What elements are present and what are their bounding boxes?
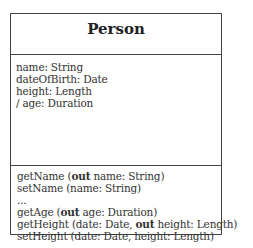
op-text: getName ( <box>17 170 71 182</box>
class-name: Person <box>87 20 145 54</box>
op-text: name: String) <box>90 170 164 182</box>
op-keyword: out <box>61 206 80 218</box>
op-text: setName (name: String) <box>17 182 141 194</box>
operation: setHeight (date: Date, height: Length) <box>17 230 221 242</box>
uml-class-person: Person name: String dateOfBirth: Date he… <box>10 13 222 235</box>
op-text: age: Duration) <box>79 206 157 218</box>
operation: getName (out name: String) <box>17 170 221 182</box>
op-text: getHeight (date: Date, <box>17 218 136 230</box>
operation: ... <box>17 194 221 206</box>
op-keyword: out <box>71 170 90 182</box>
class-header: Person <box>11 14 221 55</box>
operation: getAge (out age: Duration) <box>17 206 221 218</box>
attributes-compartment: name: String dateOfBirth: Date height: L… <box>11 55 221 166</box>
operations-compartment: getName (out name: String) setName (name… <box>11 166 221 242</box>
attribute: height: Length <box>16 85 221 97</box>
op-keyword: out <box>136 218 155 230</box>
operation: getHeight (date: Date, out height: Lengt… <box>17 218 221 230</box>
op-text: getAge ( <box>17 206 61 218</box>
op-text: height: Length) <box>154 218 237 230</box>
op-text: ... <box>17 194 26 206</box>
operation: setName (name: String) <box>17 182 221 194</box>
attribute: / age: Duration <box>16 97 221 109</box>
attribute: name: String <box>16 61 221 73</box>
attribute: dateOfBirth: Date <box>16 73 221 85</box>
op-text: setHeight (date: Date, height: Length) <box>17 230 214 242</box>
